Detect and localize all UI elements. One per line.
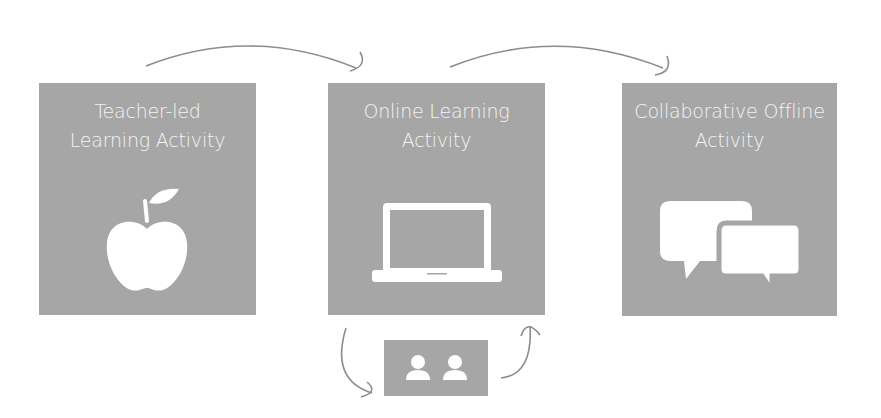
apple-icon — [39, 83, 256, 315]
speech-bubbles-icon — [622, 83, 837, 316]
step-collaborative-offline: Collaborative Offline Activity — [622, 83, 837, 316]
two-users-icon — [384, 340, 488, 396]
laptop-icon — [328, 83, 545, 315]
step-teacher-led: Teacher-led Learning Activity — [39, 83, 256, 315]
sub-step-peer-pair — [384, 340, 488, 396]
step-online-learning: Online Learning Activity — [328, 83, 545, 315]
